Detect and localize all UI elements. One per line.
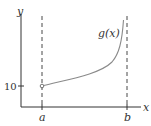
b-label: b: [124, 111, 131, 124]
x-axis-label: x: [143, 101, 150, 114]
y-tick-label: 10: [4, 81, 17, 92]
open-point: [40, 84, 44, 88]
a-label: a: [39, 111, 46, 124]
curve-label: g(x): [98, 27, 120, 40]
y-axis-label: y: [16, 5, 24, 18]
graph-figure: y x 10 a b g(x): [0, 0, 151, 126]
